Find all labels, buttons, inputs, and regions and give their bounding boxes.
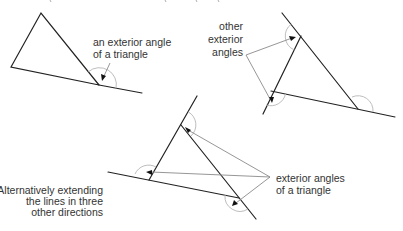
- arrowhead-icon: [101, 74, 106, 81]
- caption-angles: angles: [212, 46, 243, 58]
- caption-other: other: [219, 20, 243, 32]
- caption-exterior-angles: exterior angles: [276, 172, 345, 184]
- triangle-1-edges: [11, 13, 99, 85]
- extended-left-side: [149, 96, 197, 180]
- extended-base-line: [99, 85, 142, 93]
- pointer-arrow-line: [104, 63, 110, 76]
- pointer-line-right: [236, 177, 270, 203]
- clipped-title-remnant: [50, 0, 219, 2]
- caption-exterior-angle: an exterior angle: [93, 36, 171, 48]
- extended-right-side: [282, 13, 358, 109]
- arrowhead-right-icon: [232, 200, 238, 206]
- triangle-panel-3: exterior angles of a triangle Alternativ…: [0, 96, 345, 219]
- extended-base: [108, 172, 239, 198]
- arrowhead-top-icon: [289, 36, 296, 41]
- triangle-panel-1: an exterior angle of a triangle: [11, 13, 171, 93]
- arrowhead-left-icon: [146, 170, 152, 175]
- caption-exterior-angle-line2: of a triangle: [93, 48, 148, 60]
- exterior-angles-diagram: an exterior angle of a triangle other ex…: [0, 0, 403, 231]
- extended-right-side: [181, 125, 256, 219]
- side-note-line-3: other directions: [31, 206, 103, 218]
- pointer-line-top: [188, 130, 270, 177]
- caption-of-a-triangle: of a triangle: [276, 184, 331, 196]
- extended-base: [271, 91, 395, 117]
- exterior-angle-arc-right: [352, 96, 373, 112]
- triangle-panel-2: other exterior angles: [208, 13, 395, 117]
- pointer-line-left: [151, 172, 270, 177]
- extended-left-side: [263, 36, 301, 114]
- exterior-angle-arc-left: [266, 94, 285, 106]
- caption-exterior: exterior: [208, 33, 244, 45]
